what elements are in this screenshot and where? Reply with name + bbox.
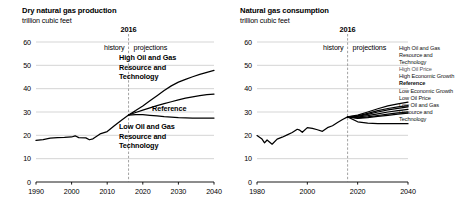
divider-year-label: 2016: [340, 25, 356, 34]
y-tick-label-30: 30: [23, 108, 31, 117]
y-tick-label-10: 10: [244, 154, 252, 163]
y-tick-label-40: 40: [23, 84, 31, 93]
x-tick-label-2040: 2040: [206, 187, 222, 196]
x-tick-label-2030: 2030: [171, 187, 187, 196]
legend-item-high-oil-and-gas-resource-and-technology: High Oil and Gas Resource and Technology: [399, 45, 461, 66]
x-tick-label-1980: 1980: [249, 187, 265, 196]
projections-label: projections: [353, 43, 387, 52]
history-label: history: [323, 43, 344, 52]
y-tick-label-50: 50: [244, 61, 252, 70]
x-tick-label-2040: 2040: [400, 187, 416, 196]
annotation-low-case-line-1: Low Oil and Gas: [119, 122, 175, 131]
y-tick-label-60: 60: [23, 38, 31, 47]
legend-item-high-oil-price: High Oil Price: [399, 66, 461, 73]
series-line-history: [36, 115, 129, 140]
legend-item-reference: Reference: [399, 80, 461, 87]
y-tick-label-0: 0: [27, 178, 31, 187]
y-tick-label-50: 50: [23, 61, 31, 70]
x-tick-label-2020: 2020: [350, 187, 366, 196]
legend-item-low-oil-price: Low Oil Price: [399, 95, 461, 102]
x-tick-label-2010: 2010: [99, 187, 115, 196]
annotation-high-case-line-1: High Oil and Gas: [119, 53, 176, 62]
legend-item-low-economic-growth: Low Economic Growth: [399, 88, 461, 95]
x-tick-label-2000: 2000: [64, 187, 80, 196]
y-tick-label-20: 20: [244, 131, 252, 140]
y-tick-label-60: 60: [244, 38, 252, 47]
annotation-reference-line-1: Reference: [152, 104, 186, 113]
divider-year-label: 2016: [121, 25, 137, 34]
history-label: history: [104, 43, 125, 52]
projections-label: projections: [134, 43, 168, 52]
y-tick-label-20: 20: [23, 131, 31, 140]
y-tick-label-0: 0: [248, 178, 252, 187]
series-line-low-oil-and-gas-resource-and-technology: [129, 115, 214, 119]
legend-item-high-economic-growth: High Economic Growth: [399, 73, 461, 80]
x-tick-label-1990: 1990: [28, 187, 44, 196]
annotation-high-case-line-3: Technology: [119, 72, 159, 81]
panel-dry-natural-gas-production: Dry natural gas production trillion cubi…: [0, 0, 231, 207]
y-tick-label-30: 30: [244, 108, 252, 117]
x-tick-label-2000: 2000: [300, 187, 316, 196]
annotation-low-case-line-3: Technology: [119, 141, 159, 150]
x-tick-label-2020: 2020: [135, 187, 151, 196]
annotation-low-case-line-2: Resource and: [119, 132, 166, 141]
series-line-history: [257, 117, 348, 144]
annotation-high-case-line-2: Resource and: [119, 63, 166, 72]
y-tick-label-40: 40: [244, 84, 252, 93]
right-chart-legend: High Oil and Gas Resource and Technology…: [399, 45, 461, 123]
left-chart-plot: 0102030405060199020002010202020302040201…: [0, 0, 231, 207]
legend-item-low-oil-and-gas-resource-and-technology: Low Oil and Gas Resource and Technology: [399, 102, 461, 123]
y-tick-label-10: 10: [23, 154, 31, 163]
two-panel-natural-gas-figure: Dry natural gas production trillion cubi…: [0, 0, 462, 207]
